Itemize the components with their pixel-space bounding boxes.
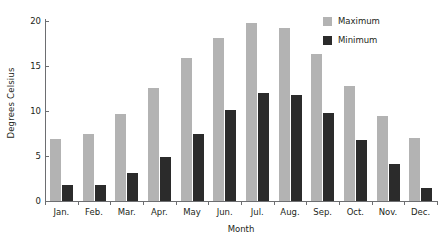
y-tick-label: 10 <box>30 106 41 116</box>
bar-maximum-sep <box>311 54 322 201</box>
x-tick-label: Nov. <box>379 207 398 217</box>
bar-minimum-nov <box>389 164 400 201</box>
bar-chart: Degrees Celsius 05101520 Jan.Feb.Mar.Apr… <box>0 0 442 245</box>
x-axis-title: Month <box>45 224 437 234</box>
y-tick-mark <box>45 66 49 67</box>
bar-minimum-feb <box>95 185 106 201</box>
x-tick-label: Sep. <box>313 207 332 217</box>
x-tick-label: Dec. <box>411 207 430 217</box>
bar-minimum-oct <box>356 140 367 201</box>
y-tick-label: 20 <box>30 16 41 26</box>
bar-minimum-jun <box>225 110 236 201</box>
y-tick-label: 5 <box>36 151 41 161</box>
legend-item: Minimum <box>323 35 380 45</box>
bar-maximum-jun <box>213 38 224 201</box>
y-tick-label: 0 <box>36 196 41 206</box>
bar-maximum-aug <box>279 28 290 201</box>
x-tick-mark <box>208 201 209 205</box>
y-tick-mark <box>45 156 49 157</box>
legend-label: Maximum <box>338 16 380 26</box>
bar-minimum-apr <box>160 157 171 201</box>
bar-maximum-apr <box>148 88 159 201</box>
y-tick-label: 15 <box>30 61 41 71</box>
x-tick-label: Oct. <box>347 207 364 217</box>
x-tick-mark <box>372 201 373 205</box>
legend-label: Minimum <box>338 35 377 45</box>
bar-minimum-aug <box>291 95 302 201</box>
bar-minimum-jan <box>62 185 73 201</box>
x-tick-label: Feb. <box>85 207 103 217</box>
x-tick-mark <box>241 201 242 205</box>
bar-minimum-may <box>193 134 204 201</box>
x-tick-mark <box>45 201 46 205</box>
bar-minimum-sep <box>323 113 334 201</box>
y-tick-mark <box>45 21 49 22</box>
bar-maximum-may <box>181 58 192 201</box>
x-tick-label: Mar. <box>118 207 136 217</box>
bar-minimum-mar <box>127 173 138 201</box>
x-tick-label: Jan. <box>53 207 69 217</box>
bar-maximum-dec <box>409 138 420 201</box>
y-tick-mark <box>45 111 49 112</box>
bar-maximum-jul <box>246 23 257 201</box>
x-tick-mark <box>404 201 405 205</box>
bar-maximum-jan <box>50 139 61 201</box>
x-tick-mark <box>306 201 307 205</box>
x-tick-label: Apr. <box>151 207 168 217</box>
x-tick-mark <box>78 201 79 205</box>
x-tick-mark <box>176 201 177 205</box>
x-tick-mark <box>274 201 275 205</box>
x-tick-label: Aug. <box>280 207 299 217</box>
bar-maximum-feb <box>83 134 94 201</box>
x-tick-label: Jun. <box>217 207 233 217</box>
x-tick-mark <box>437 201 438 205</box>
x-tick-mark <box>110 201 111 205</box>
y-axis-ticks: 05101520 <box>0 0 41 245</box>
x-tick-label: May <box>183 207 201 217</box>
legend-swatch-minimum <box>323 36 332 45</box>
legend-item: Maximum <box>323 16 380 26</box>
bar-minimum-jul <box>258 93 269 201</box>
bar-maximum-nov <box>377 116 388 201</box>
chart-legend: MaximumMinimum <box>323 16 380 54</box>
bar-maximum-mar <box>115 114 126 201</box>
x-tick-mark <box>339 201 340 205</box>
bar-minimum-dec <box>421 188 432 202</box>
legend-swatch-maximum <box>323 17 332 26</box>
x-tick-mark <box>143 201 144 205</box>
x-tick-label: Jul. <box>251 207 264 217</box>
bar-maximum-oct <box>344 86 355 201</box>
